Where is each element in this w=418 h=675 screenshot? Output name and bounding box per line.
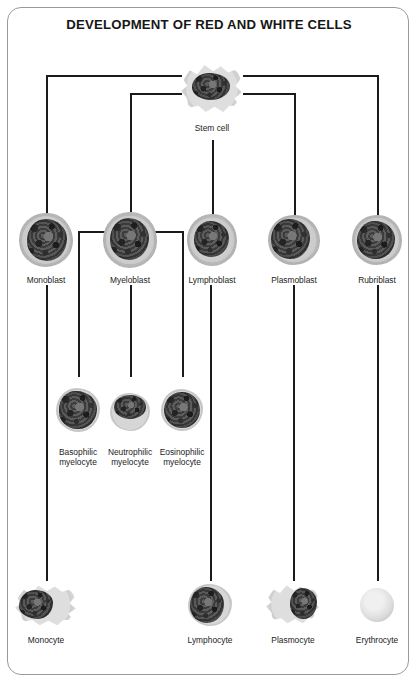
monocyte-label: Monocyte <box>18 635 74 645</box>
edge-drop-eosinophilic-myelocyte <box>182 231 184 377</box>
monoblast-micrograph <box>19 213 73 267</box>
edge-stem-to-inner-left <box>130 93 182 95</box>
edge-stem-to-outer-left <box>46 75 182 77</box>
monocyte-micrograph <box>15 583 77 627</box>
basophilic-myelocyte-label: Basophilic myelocyte <box>50 447 106 468</box>
stem-cell-micrograph <box>181 62 243 114</box>
erythrocyte-label: Erythrocyte <box>342 635 412 645</box>
myeloblast-label: Myeloblast <box>102 275 158 285</box>
page-title: DEVELOPMENT OF RED AND WHITE CELLS <box>0 17 418 32</box>
stem-cell-label: Stem cell <box>184 123 240 133</box>
edge-drop-plasmocyte <box>293 285 295 581</box>
plasmoblast-micrograph <box>268 215 320 265</box>
lymphocyte-micrograph <box>188 584 232 626</box>
eosinophilic-myelocyte-label: Eosinophilic myelocyte <box>154 447 210 468</box>
erythrocyte-micrograph <box>360 588 394 622</box>
rubriblast-label: Rubriblast <box>342 275 412 285</box>
myeloblast-micrograph <box>103 212 157 268</box>
lymphoblast-micrograph <box>187 214 237 266</box>
lymphocyte-label: Lymphocyte <box>175 635 245 645</box>
edge-stem-to-inner-right <box>243 93 294 95</box>
edge-drop-myeloblast <box>130 93 132 215</box>
edge-drop-lymphocyte <box>210 285 212 581</box>
edge-stem-to-outer-right <box>243 75 377 77</box>
plasmocyte-micrograph <box>266 583 320 625</box>
plasmoblast-label: Plasmoblast <box>259 275 329 285</box>
lymphoblast-label: Lymphoblast <box>177 275 247 285</box>
edge-drop-basophilic-myelocyte <box>78 231 80 377</box>
neutrophilic-myelocyte-label: Neutrophilic myelocyte <box>102 447 158 468</box>
rubriblast-micrograph <box>352 215 402 265</box>
neutrophilic-myelocyte-micrograph <box>110 393 150 431</box>
edge-myeloblast-stem <box>130 285 132 377</box>
monoblast-label: Monoblast <box>18 275 74 285</box>
edge-drop-monocyte <box>46 285 48 581</box>
basophilic-myelocyte-micrograph <box>56 388 100 432</box>
plasmocyte-label: Plasmocyte <box>258 635 328 645</box>
edge-drop-rubriblast <box>377 75 379 215</box>
edge-drop-lymphoblast <box>212 140 214 215</box>
eosinophilic-myelocyte-micrograph <box>161 389 203 431</box>
edge-drop-plasmoblast <box>294 93 296 215</box>
edge-drop-monoblast <box>46 75 48 215</box>
edge-drop-erythrocyte <box>377 285 379 581</box>
